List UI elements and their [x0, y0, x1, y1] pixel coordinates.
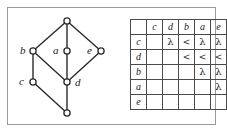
graph-edge [67, 51, 101, 82]
graph-node [30, 79, 36, 85]
table-cell-b-e: λ [211, 65, 227, 80]
table-cell-b-a: λ [195, 65, 211, 80]
table-corner-cell [131, 20, 147, 35]
lattice-diagram-svg [0, 0, 122, 135]
graph-edge [33, 82, 67, 113]
table-cell-e-a [195, 95, 211, 110]
table-cell-d-e: < [211, 50, 227, 65]
table-row-header-a: a [131, 80, 147, 95]
table-header-row: cdbae [131, 20, 227, 35]
graph-node [30, 48, 36, 54]
table-cell-b-c [147, 65, 163, 80]
table-cell-c-c [147, 35, 163, 50]
relation-table-panel: cdbaecλ<λλd<<<bλλaλe [130, 19, 227, 110]
table-row-header-b: b [131, 65, 147, 80]
node-label-e: e [87, 45, 92, 56]
figure-root: baecd cdbaecλ<λλd<<<bλλaλe [0, 0, 227, 135]
table-cell-a-d [163, 80, 179, 95]
table-cell-e-b [179, 95, 195, 110]
table-cell-d-b: < [179, 50, 195, 65]
table-column-header-d: d [163, 20, 179, 35]
table-column-header-c: c [147, 20, 163, 35]
table-row-header-c: c [131, 35, 147, 50]
table-cell-c-a: λ [195, 35, 211, 50]
table-cell-c-d: λ [163, 35, 179, 50]
node-label-c: c [19, 76, 24, 87]
table-cell-e-c [147, 95, 163, 110]
table-cell-a-c [147, 80, 163, 95]
table-row-header-d: d [131, 50, 147, 65]
table-row: d<<< [131, 50, 227, 65]
table-cell-d-a: < [195, 50, 211, 65]
table-row: cλ<λλ [131, 35, 227, 50]
table-row: aλ [131, 80, 227, 95]
table-cell-b-b [179, 65, 195, 80]
table-cell-e-e [211, 95, 227, 110]
table-cell-a-e: λ [211, 80, 227, 95]
node-label-a: a [53, 45, 59, 56]
table-cell-b-d [163, 65, 179, 80]
node-label-d: d [75, 77, 81, 88]
table-cell-c-b: < [179, 35, 195, 50]
table-row: e [131, 95, 227, 110]
graph-edge [33, 21, 67, 51]
graph-edges [33, 21, 101, 113]
table-cell-a-b [179, 80, 195, 95]
relation-table: cdbaecλ<λλd<<<bλλaλe [130, 19, 227, 110]
table-cell-d-d [163, 50, 179, 65]
table-cell-e-d [163, 95, 179, 110]
graph-edge [67, 21, 101, 51]
table-row: bλλ [131, 65, 227, 80]
graph-node [64, 48, 70, 54]
graph-panel: baecd [0, 0, 122, 135]
table-cell-c-e: λ [211, 35, 227, 50]
graph-node [64, 18, 70, 24]
table-cell-d-c [147, 50, 163, 65]
graph-node [64, 110, 70, 116]
node-label-b: b [20, 45, 26, 56]
graph-node [98, 48, 104, 54]
table-column-header-b: b [179, 20, 195, 35]
graph-edge [33, 51, 67, 82]
table-row-header-e: e [131, 95, 147, 110]
table-column-header-a: a [195, 20, 211, 35]
table-column-header-e: e [211, 20, 227, 35]
table-cell-a-a [195, 80, 211, 95]
graph-node [64, 79, 70, 85]
